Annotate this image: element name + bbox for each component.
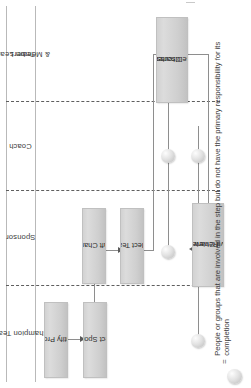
involvement-marker-sponsor-discuss (161, 245, 175, 259)
lane-divider-3 (6, 285, 220, 286)
involvement-marker-coach-discuss (161, 149, 175, 163)
lane-label-team-leader-members: Team Leader& Members (6, 6, 35, 102)
connector-discuss-out (186, 54, 209, 55)
swimlane-frame: Team Leader& Members Coach Sponsor Champ… (6, 6, 220, 382)
lane-label-line1: Coach (9, 142, 32, 151)
involvement-marker-champion-review (191, 334, 205, 348)
node-label-line1: Identify Project (44, 335, 68, 344)
node-select-team[interactable]: Select Team (120, 208, 144, 284)
node-label-line1: Draft Charter (82, 241, 106, 250)
lane-label-coach: Coach (6, 102, 35, 190)
node-label-line1: Select Team (120, 241, 144, 250)
node-label-line1: Select Sponsor (83, 335, 107, 344)
legend: = People or groups that are involved in … (223, 0, 251, 388)
diagram-canvas: Team Leader& Members Coach Sponsor Champ… (0, 0, 251, 388)
lane-header-separator (35, 6, 36, 382)
lane-label-champion-team: Champion Team (6, 284, 35, 382)
lane-label-line2: & Members (7, 50, 53, 59)
node-identify-project[interactable]: Identify Project (44, 302, 68, 378)
lane-label-line1: Champion Team (0, 329, 49, 338)
lane-divider-2 (6, 190, 220, 191)
legend-circle-icon (227, 369, 242, 384)
involvement-stem-discuss-to-sponsor (168, 84, 169, 252)
involvement-marker-coach-review (191, 149, 205, 163)
connector-select-team-to-discuss-riser (153, 54, 154, 251)
legend-equals-sign: = (220, 359, 229, 364)
node-label-line2: Revise Charter (157, 55, 188, 64)
node-select-sponsor[interactable]: Select Sponsor (83, 302, 107, 378)
lane-label-sponsor: Sponsor (6, 190, 35, 284)
node-discuss-revise-charter[interactable]: Discuss andRevise Charter (156, 17, 188, 103)
node-draft-charter[interactable]: Draft Charter (82, 208, 106, 284)
top-tick-mark (186, 2, 195, 3)
legend-description: People or groups that are involved in th… (213, 4, 232, 356)
lane-label-line1: Sponsor (6, 233, 35, 242)
